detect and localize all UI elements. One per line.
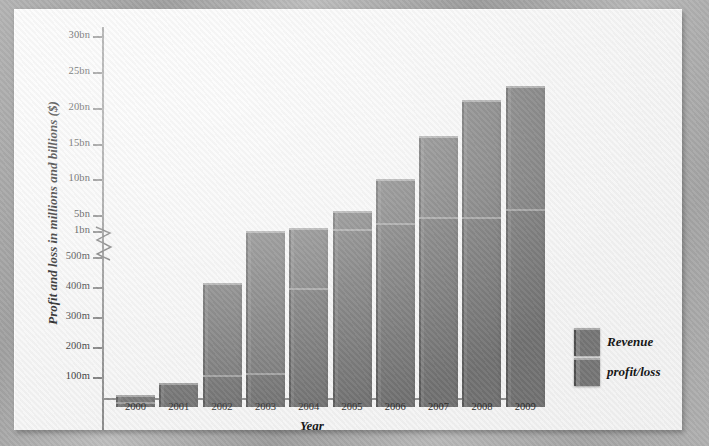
y-axis-tick-label: 20bn [14, 101, 90, 112]
legend-item-revenue[interactable]: Revenue [574, 327, 682, 357]
x-axis-tick-label-2001: 2001 [159, 401, 198, 412]
bar-2006[interactable] [376, 179, 415, 407]
x-axis-tick-label-2003: 2003 [246, 401, 285, 412]
y-axis-tick [93, 72, 102, 74]
chart-legend: Revenue profit/loss [574, 327, 682, 387]
bar-segment-revenue [462, 100, 501, 407]
y-axis-tick-label: 400m [14, 280, 90, 291]
chart-panel: 30bn25bn20bn15bn10bn5bn1bn500m400m300m20… [14, 9, 682, 430]
legend-swatch-profit-loss [574, 358, 600, 386]
y-axis-tick [93, 108, 102, 110]
y-axis-tick-label: 300m [14, 310, 90, 321]
x-axis-line [102, 398, 522, 400]
chart-outer-frame: 30bn25bn20bn15bn10bn5bn1bn500m400m300m20… [0, 0, 709, 446]
x-axis-tick-label-2006: 2006 [376, 401, 415, 412]
x-axis-tick-label-2004: 2004 [289, 401, 328, 412]
y-axis-tick [93, 36, 102, 38]
legend-label-profit-loss: profit/loss [607, 364, 660, 380]
bar-segment-revenue [159, 385, 198, 408]
y-axis-tick-label: 25bn [14, 65, 90, 76]
bar-segment-revenue [376, 179, 415, 407]
legend-swatch-revenue [574, 328, 600, 356]
y-axis-tick [93, 179, 102, 181]
legend-item-profit-loss[interactable]: profit/loss [574, 357, 682, 387]
y-axis-tick [93, 257, 102, 259]
y-axis-tick-label: 10bn [14, 172, 90, 183]
bar-segment-profit-loss [203, 375, 242, 407]
bar-segment-profit-loss [506, 209, 545, 407]
legend-label-revenue: Revenue [607, 334, 653, 350]
bar-2000[interactable] [116, 395, 155, 407]
y-axis-tick [93, 144, 102, 146]
x-axis-tick-label-2002: 2002 [203, 401, 242, 412]
plot-area: 30bn25bn20bn15bn10bn5bn1bn500m400m300m20… [14, 9, 682, 430]
y-axis-tick-label: 15bn [14, 137, 90, 148]
bar-2007[interactable] [419, 136, 458, 407]
y-axis-tick-label: 200m [14, 340, 90, 351]
y-axis-tick [93, 231, 102, 233]
y-axis-title: Profit and loss in millions and billions… [45, 48, 61, 378]
x-axis-tick-label-2009: 2009 [506, 401, 545, 412]
bar-2001[interactable] [159, 385, 198, 408]
x-axis-tick-label-2005: 2005 [333, 401, 372, 412]
bar-segment-profit-loss [116, 402, 155, 407]
y-axis-tick-label: 500m [14, 250, 90, 261]
y-axis-tick-label: 5bn [14, 208, 90, 219]
x-axis-tick-label-2007: 2007 [419, 401, 458, 412]
bar-segment-profit-loss [419, 217, 458, 407]
bar-segment-revenue [289, 228, 328, 407]
y-axis-tick-label: 1bn [14, 224, 90, 235]
y-axis-tick-label: 30bn [14, 29, 90, 40]
y-axis-tick [93, 347, 102, 349]
bar-segment-profit-loss [289, 288, 328, 407]
y-axis-tick [93, 287, 102, 289]
bar-segment-revenue [246, 231, 285, 407]
y-axis-line [102, 27, 104, 430]
bar-2008[interactable] [462, 100, 501, 407]
y-axis-tick [93, 377, 102, 379]
bar-segment-profit-loss [376, 223, 415, 407]
bar-2009[interactable] [506, 86, 545, 407]
bar-segment-profit-loss [159, 383, 198, 408]
bar-2005[interactable] [333, 211, 372, 407]
bar-segment-revenue [203, 283, 242, 408]
bar-segment-revenue [419, 136, 458, 407]
y-axis-tick [93, 215, 102, 217]
x-axis-tick-label-2000: 2000 [116, 401, 155, 412]
y-axis-tick-label: 100m [14, 370, 90, 381]
y-axis-tick [93, 317, 102, 319]
x-axis-tick-label-2008: 2008 [462, 401, 501, 412]
bar-segment-revenue [333, 211, 372, 407]
bar-segment-revenue [506, 86, 545, 407]
bar-2002[interactable] [203, 283, 242, 408]
bar-2004[interactable] [289, 228, 328, 407]
bar-segment-profit-loss [462, 217, 501, 407]
bar-segment-profit-loss [246, 373, 285, 407]
bar-segment-revenue [116, 395, 155, 407]
x-axis-title: Year [102, 418, 522, 430]
bar-segment-profit-loss [333, 229, 372, 407]
axis-break-zigzag [94, 225, 116, 261]
bar-2003[interactable] [246, 231, 285, 407]
